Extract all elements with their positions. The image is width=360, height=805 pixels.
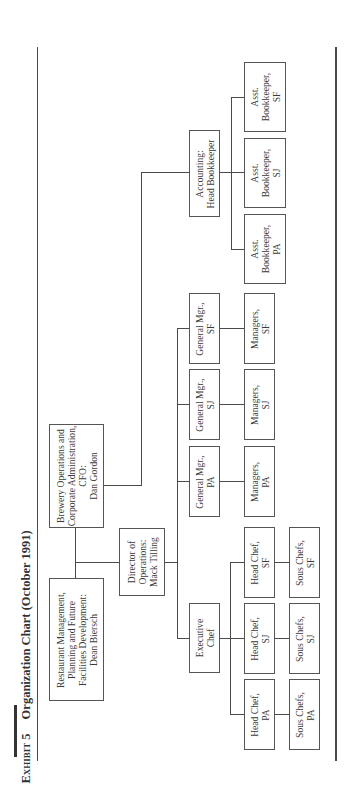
node-brewery-operations: Brewery Operations andCorporate Administ…	[49, 424, 104, 528]
connector	[104, 485, 142, 486]
node-asst-bookkeeper-sj: Asst.Bookkeeper,SJ	[244, 138, 286, 208]
node-sous-chefs-sf: Sous Chefs,SF	[289, 527, 320, 598]
connector	[165, 562, 177, 563]
node-managers-sf: Managers,SF	[244, 293, 275, 364]
node-general-mgr-pa: General Mgr.,PA	[189, 446, 220, 517]
exhibit-label: Exhibit 5	[19, 733, 33, 783]
connector	[230, 714, 244, 715]
connector	[220, 172, 231, 173]
exhibit-bar	[14, 705, 17, 757]
connector	[75, 562, 119, 563]
connector	[274, 638, 289, 639]
connector	[75, 528, 76, 578]
connector	[220, 638, 230, 639]
node-accounting: Accounting:Head Bookkeeper	[189, 130, 220, 217]
connector	[231, 172, 244, 173]
connector	[177, 638, 189, 639]
connector	[274, 562, 289, 563]
node-restaurant-management: Restaurant Management,Planning and Futur…	[49, 578, 104, 701]
connector	[231, 97, 244, 98]
connector	[177, 328, 178, 638]
connector	[177, 328, 189, 329]
node-asst-bookkeeper-pa: Asst.Bookkeeper,PA	[244, 214, 286, 284]
connector	[141, 172, 142, 486]
connector	[274, 714, 289, 715]
node-managers-pa: Managers,PA	[244, 446, 275, 517]
node-general-mgr-sf: General Mgr.,SF	[189, 293, 220, 364]
connector	[230, 638, 244, 639]
connector	[219, 404, 244, 405]
node-general-mgr-sj: General Mgr.,SJ	[189, 369, 220, 440]
node-asst-bookkeeper-sf: Asst.Bookkeeper,SF	[244, 62, 286, 132]
connector	[177, 404, 189, 405]
chart-title: Exhibit 5Organization Chart (October 199…	[19, 530, 34, 783]
connector	[231, 97, 232, 250]
node-head-chef-sj: Head Chef,SJ	[244, 603, 275, 674]
right-rule	[335, 47, 337, 761]
node-sous-chefs-sj: Sous Chefs,SJ	[289, 603, 320, 674]
node-sous-chefs-pa: Sous Chefs,PA	[289, 679, 320, 750]
node-director-operations: Director ofOperations:Mack Tilling	[119, 528, 165, 596]
connector	[177, 481, 189, 482]
node-executive-chef: ExecutiveChef	[189, 603, 220, 673]
connector	[219, 481, 244, 482]
connector	[231, 249, 244, 250]
node-managers-sj: Managers,SJ	[244, 369, 275, 440]
title-text: Organization Chart (October 1991)	[19, 530, 33, 719]
connector	[230, 562, 244, 563]
left-rule	[37, 47, 38, 761]
connector	[219, 328, 244, 329]
node-head-chef-sf: Head Chef,SF	[244, 527, 275, 598]
node-head-chef-pa: Head Chef,PA	[244, 679, 275, 750]
connector	[141, 172, 189, 173]
